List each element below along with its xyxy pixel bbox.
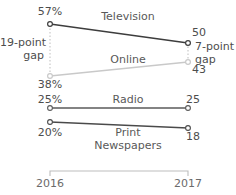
marker-print-newspapers-2016: [48, 120, 53, 125]
annotation-right-gap-line2: gap: [195, 54, 216, 67]
x-tick-label-2016: 2016: [26, 178, 74, 191]
series-line-television: [50, 24, 188, 43]
annotation-left-gap-line2: gap: [0, 50, 44, 63]
x-axis-bracket: [50, 171, 188, 176]
series-label-print-newspapers-line2: Newspapers: [84, 140, 172, 153]
value-label-television-2016: 57%: [26, 6, 74, 19]
value-label-online-2016: 38%: [26, 79, 74, 92]
slope-chart: 57% 50 Television 38% 43 Online 25% 25 R…: [0, 0, 236, 195]
marker-television-2016: [48, 22, 53, 27]
value-label-print-2017: 18: [186, 131, 200, 144]
x-tick-label-2017: 2017: [164, 178, 212, 191]
series-label-online: Online: [90, 54, 166, 67]
series-label-television: Television: [90, 11, 166, 24]
value-label-television-2017: 50: [192, 27, 206, 40]
marker-online-2017: [186, 60, 191, 65]
marker-television-2017: [186, 41, 191, 46]
value-label-radio-2016: 25%: [26, 94, 74, 107]
series-label-print-newspapers-line1: Print: [90, 127, 166, 140]
annotation-right-gap-line1: 7-point: [195, 41, 234, 54]
annotation-left-gap-line1: 19-point: [0, 37, 44, 50]
series-label-radio: Radio: [90, 94, 166, 107]
value-label-radio-2017: 25: [186, 94, 200, 107]
value-label-print-2016: 20%: [26, 127, 74, 140]
